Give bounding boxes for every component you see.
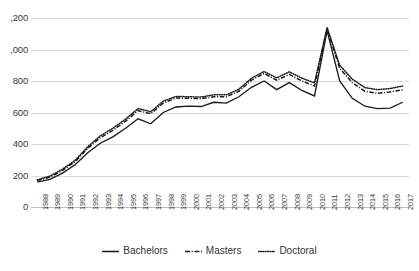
x-tick-label: 1997 bbox=[154, 194, 163, 210]
y-tick-label: 600 bbox=[0, 108, 28, 118]
x-tick-label: 2014 bbox=[368, 194, 377, 210]
x-tick-label: 1994 bbox=[116, 194, 125, 210]
x-tick-label: 1990 bbox=[66, 194, 75, 210]
x-tick-label: 2002 bbox=[217, 194, 226, 210]
legend-marker-dash-dot-icon bbox=[185, 248, 202, 255]
x-tick-label: 1989 bbox=[53, 194, 62, 210]
x-tick-label: 2012 bbox=[343, 194, 352, 210]
series-line-bachelors bbox=[37, 31, 402, 183]
legend-item-masters[interactable]: Masters bbox=[185, 246, 242, 256]
x-tick-label: 2006 bbox=[267, 194, 276, 210]
y-tick-label: 400 bbox=[0, 139, 28, 149]
x-tick-label: 2001 bbox=[204, 194, 213, 210]
y-tick-label: 0 bbox=[0, 202, 28, 212]
chart-legend: BachelorsMastersDoctoral bbox=[0, 246, 419, 256]
x-tick-label: 2017 bbox=[406, 194, 415, 210]
x-tick-label: 2005 bbox=[255, 194, 264, 210]
x-tick-label: 2015 bbox=[381, 194, 390, 210]
legend-item-doctoral[interactable]: Doctoral bbox=[258, 246, 316, 256]
line-chart: 0200400600800,000,200 198819891990199119… bbox=[0, 0, 419, 271]
series-line-masters bbox=[37, 29, 402, 181]
x-tick-label: 2008 bbox=[293, 194, 302, 210]
x-tick-label: 2011 bbox=[330, 195, 339, 211]
series-line-doctoral bbox=[37, 27, 402, 179]
x-tick-label: 2010 bbox=[318, 194, 327, 210]
y-tick-label: 800 bbox=[0, 76, 28, 86]
y-tick-label: ,200 bbox=[0, 13, 28, 23]
legend-item-bachelors[interactable]: Bachelors bbox=[102, 246, 167, 256]
x-tick-label: 2016 bbox=[393, 194, 402, 210]
x-tick-label: 1996 bbox=[141, 194, 150, 210]
legend-label: Doctoral bbox=[279, 246, 316, 256]
series-lines bbox=[31, 18, 409, 207]
x-tick-label: 1991 bbox=[78, 194, 87, 210]
x-tick-label: 2007 bbox=[280, 194, 289, 210]
x-tick-label: 2013 bbox=[356, 194, 365, 210]
x-tick-label: 2000 bbox=[192, 194, 201, 210]
y-tick-label: ,000 bbox=[0, 45, 28, 55]
x-tick-label: 1999 bbox=[179, 194, 188, 210]
legend-label: Masters bbox=[206, 246, 242, 256]
x-tick-label: 1993 bbox=[104, 194, 113, 210]
y-tick-label: 200 bbox=[0, 171, 28, 181]
x-tick-label: 1995 bbox=[129, 194, 138, 210]
x-tick-label: 1988 bbox=[41, 194, 50, 210]
x-tick-label: 1992 bbox=[91, 194, 100, 210]
legend-label: Bachelors bbox=[123, 246, 167, 256]
legend-marker-solid-icon bbox=[102, 248, 119, 255]
x-tick-label: 2004 bbox=[242, 194, 251, 210]
x-tick-label: 1998 bbox=[167, 194, 176, 210]
x-tick-label: 2009 bbox=[305, 194, 314, 210]
x-tick-label: 2003 bbox=[230, 194, 239, 210]
legend-marker-dotted-icon bbox=[258, 248, 275, 255]
plot-area bbox=[31, 18, 409, 207]
